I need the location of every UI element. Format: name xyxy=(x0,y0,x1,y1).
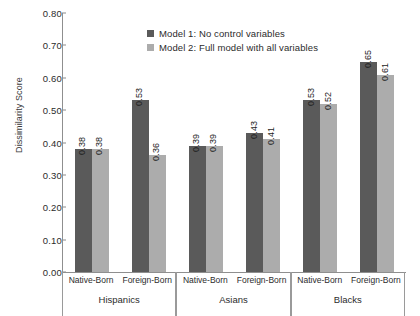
bar xyxy=(320,104,337,272)
bar xyxy=(75,149,92,272)
y-tick-label: 0.60 xyxy=(28,72,62,83)
x-axis-group-label: Blacks xyxy=(292,294,404,305)
y-tick-label: 0.70 xyxy=(28,40,62,51)
bar-value-label: 0.41 xyxy=(266,127,276,145)
x-axis-group: Native-BornForeign-BornAsians xyxy=(176,272,290,316)
bar-value-label: 0.39 xyxy=(191,133,201,151)
y-tick-label: 0.40 xyxy=(28,137,62,148)
x-axis-subcategory-row: Native-BornForeign-Born xyxy=(177,275,289,285)
bar-value-label: 0.38 xyxy=(94,137,104,155)
bar-value-label: 0.39 xyxy=(208,133,218,151)
y-tick-label: 0.50 xyxy=(28,105,62,116)
x-axis-group-label: Hispanics xyxy=(63,294,175,305)
legend-label: Model 1: No control variables xyxy=(159,28,285,39)
bar xyxy=(189,146,206,272)
x-axis-subcategory-label: Foreign-Born xyxy=(119,275,175,285)
y-tick-label: 0.20 xyxy=(28,202,62,213)
x-axis-subcategory-label: Native-Born xyxy=(63,275,119,285)
bar xyxy=(377,75,394,272)
x-axis-subcategory-label: Native-Born xyxy=(177,275,233,285)
x-axis-subcategory-label: Native-Born xyxy=(292,275,348,285)
legend-item: Model 1: No control variables xyxy=(147,26,318,40)
bar xyxy=(303,100,320,272)
chart-legend: Model 1: No control variablesModel 2: Fu… xyxy=(147,26,318,54)
bar-value-label: 0.52 xyxy=(323,91,333,109)
legend-swatch-icon xyxy=(147,44,154,51)
x-axis-subcategory-label: Foreign-Born xyxy=(234,275,290,285)
bar xyxy=(206,146,223,272)
bar-value-label: 0.38 xyxy=(77,137,87,155)
y-axis-tick-labels: 0.000.100.200.300.400.500.600.700.80 xyxy=(24,0,62,316)
x-axis-group-label: Asians xyxy=(177,294,289,305)
bar-value-label: 0.61 xyxy=(380,62,390,80)
bar-chart: Dissimilarity Score 0.000.100.200.300.40… xyxy=(0,0,420,316)
bar xyxy=(360,62,377,272)
bar-value-label: 0.65 xyxy=(363,49,373,67)
y-tick-label: 0.10 xyxy=(28,234,62,245)
x-axis-group: Native-BornForeign-BornHispanics xyxy=(62,272,176,316)
bar-value-label: 0.53 xyxy=(306,88,316,106)
legend-item: Model 2: Full model with all variables xyxy=(147,40,318,54)
x-axis-subcategory-label: Foreign-Born xyxy=(348,275,404,285)
y-tick-label: 0.30 xyxy=(28,169,62,180)
y-axis-title: Dissimilarity Score xyxy=(14,55,24,175)
x-axis-group: Native-BornForeign-BornBlacks xyxy=(291,272,405,316)
y-tick-label: 0.00 xyxy=(28,267,62,278)
bar-value-label: 0.43 xyxy=(249,120,259,138)
x-axis-category-band: Native-BornForeign-BornHispanicsNative-B… xyxy=(62,272,406,316)
x-axis-subcategory-row: Native-BornForeign-Born xyxy=(292,275,404,285)
bar xyxy=(263,139,280,272)
bar xyxy=(246,133,263,272)
x-axis-subcategory-row: Native-BornForeign-Born xyxy=(63,275,175,285)
legend-label: Model 2: Full model with all variables xyxy=(159,42,318,53)
legend-swatch-icon xyxy=(147,30,154,37)
bar xyxy=(92,149,109,272)
bar xyxy=(149,155,166,272)
bar xyxy=(132,100,149,272)
y-tick-label: 0.80 xyxy=(28,8,62,19)
bar-value-label: 0.53 xyxy=(134,88,144,106)
bar-value-label: 0.36 xyxy=(151,143,161,161)
